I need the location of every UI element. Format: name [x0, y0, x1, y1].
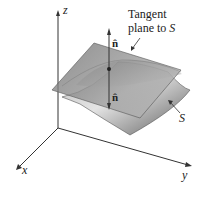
tangent-plane-diagram: z x y Tangent plane to S S n̂ n̂	[0, 0, 201, 217]
tangent-plane-label-s: S	[169, 21, 175, 35]
y-axis-label: y	[182, 169, 187, 182]
normal-up-arrow-icon	[107, 28, 111, 35]
tangent-plane-label-prefix: plane to	[128, 21, 169, 35]
normal-up-label: n̂	[112, 37, 118, 50]
x-axis-label: x	[22, 164, 27, 177]
surface-s-label: S	[179, 112, 185, 125]
normal-down-label: n̂	[112, 91, 118, 104]
y-axis-arrow-icon	[185, 162, 192, 167]
z-axis-label: z	[63, 4, 68, 17]
tangent-plane-label-line2: plane to S	[128, 22, 175, 35]
tangent-point	[107, 67, 111, 71]
y-axis	[58, 128, 188, 165]
tangent-plane-label-line1: Tangent	[128, 8, 166, 21]
x-axis	[19, 128, 58, 167]
z-axis-arrow-icon	[56, 10, 60, 16]
tangent-plane-leader-arrow-icon	[131, 46, 135, 51]
